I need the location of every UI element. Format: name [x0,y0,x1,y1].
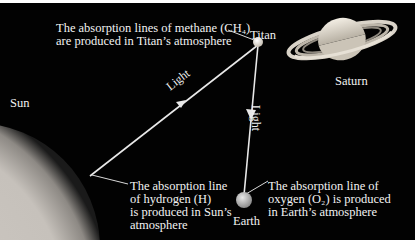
hydrogen-annotation-line: atmosphere [130,219,232,232]
diagram-panel: Sun Titan Saturn Earth Light Light The a… [0,3,415,240]
pointer-hydrogen [92,175,128,184]
oxygen-annotation-line: in Earth’s atmosphere [268,206,391,219]
sun-label: Sun [10,97,29,110]
saturn-label: Saturn [335,75,368,88]
light-label-2: Light [249,105,262,131]
pointer-oxygen [246,181,268,194]
earth-body [236,192,252,208]
sun-body [0,123,100,240]
methane-annotation-line: are produced in Titan’s atmosphere [56,35,250,48]
methane-annotation: The absorption lines of methane (CH₄) ar… [56,22,250,48]
oxygen-annotation: The absorption line of oxygen (O₂) is pr… [268,180,391,219]
saturn-body [283,5,400,72]
earth-label: Earth [233,215,260,228]
hydrogen-annotation: The absorption line of hydrogen (H) is p… [130,180,232,232]
light-ray-sun-to-titan [90,45,258,176]
titan-label: Titan [250,29,276,42]
